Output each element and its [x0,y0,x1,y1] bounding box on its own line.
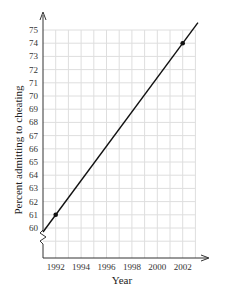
data-point [180,41,185,46]
y-tick-label: 70 [29,91,39,101]
x-axis-title: Year [112,274,133,286]
y-axis-title: Percent admitting to cheating [12,85,24,215]
y-tick-label: 75 [29,25,39,35]
x-tick-label: 2002 [174,262,192,272]
grid-lines [43,30,195,258]
x-tick-label: 1992 [47,262,65,272]
x-tick-label: 1996 [98,262,117,272]
x-tick-label: 1994 [72,262,91,272]
trend-line [43,23,198,232]
y-tick-label: 65 [29,157,39,167]
y-tick-label: 61 [29,210,38,220]
y-tick-label: 72 [29,65,38,75]
y-axis-break-icon [40,230,46,244]
data-point [53,213,58,218]
y-tick-label: 60 [29,223,39,233]
y-tick-label: 68 [29,117,39,127]
y-tick-label: 71 [29,78,38,88]
x-tick-label: 1998 [123,262,142,272]
y-tick-label: 69 [29,104,39,114]
x-tick-labels: 199219941996199820002002 [47,262,192,272]
y-tick-label: 73 [29,51,39,61]
y-tick-label: 66 [29,144,39,154]
y-tick-label: 74 [29,38,39,48]
line-chart: 60616263646566676869707172737475 1992199… [0,0,225,299]
y-tick-label: 62 [29,197,38,207]
y-tick-label: 63 [29,183,39,193]
y-tick-label: 64 [29,170,39,180]
x-tick-label: 2000 [148,262,167,272]
y-tick-label: 67 [29,131,39,141]
data-series [43,23,198,232]
axes [40,12,209,261]
y-tick-labels: 60616263646566676869707172737475 [29,25,39,233]
